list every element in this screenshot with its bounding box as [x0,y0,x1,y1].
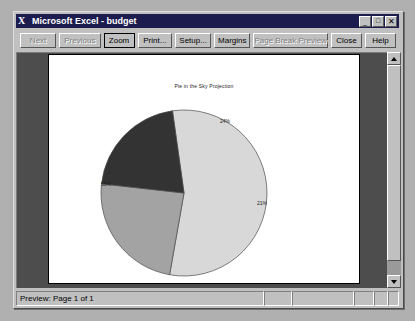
pie-slice [102,111,184,193]
toolbar-button-label: Previous [64,36,95,45]
close-icon: ✕ [386,18,396,25]
minimize-button[interactable]: _ [359,16,371,27]
toolbar-button-label: Next [30,36,46,45]
preview-page-sheet: Pie in the Sky Projection 24% 21% 55% [48,54,360,284]
print-button[interactable]: Print... [138,33,172,48]
print-preview-toolbar: NextPreviousZoomPrint...Setup...MarginsP… [16,29,399,51]
excel-x-icon: X [18,16,29,27]
vertical-scrollbar[interactable] [387,52,401,288]
setup-button[interactable]: Setup... [175,33,211,48]
toolbar-button-label: Setup... [179,36,207,45]
pie-chart: Pie in the Sky Projection 24% 21% 55% [49,55,359,283]
excel-x-glyph: X [18,15,25,26]
next-button: Next [20,33,56,48]
close-button[interactable]: Close [331,33,362,48]
toolbar-button-label: Print... [143,36,166,45]
pie-graphic: 24% 21% 55% [100,109,268,277]
maximize-button[interactable]: □ [372,16,384,27]
window-title: Microsoft Excel - budget [32,14,137,28]
triangle-down-icon [391,280,397,284]
scrollbar-thumb[interactable] [387,65,401,261]
margins-button[interactable]: Margins [214,33,250,48]
status-panel-5 [388,291,399,306]
minimize-icon: _ [360,18,370,25]
excel-print-preview-window: X Microsoft Excel - budget _ □ ✕ NextPre… [13,11,404,309]
status-text: Preview: Page 1 of 1 [16,291,264,306]
toolbar-button-label: Zoom [109,36,129,45]
slice-label-left: 55% [101,181,111,187]
status-bar: Preview: Page 1 of 1 [16,291,399,306]
preview-client-area[interactable]: Pie in the Sky Projection 24% 21% 55% [16,52,399,288]
window-controls: _ □ ✕ [359,16,399,27]
close-window-button[interactable]: ✕ [385,16,397,27]
triangle-up-icon [391,57,397,61]
status-panel-4 [374,291,388,306]
pie-slice [101,184,184,275]
status-panel-1 [264,291,292,306]
scrollbar-track[interactable] [387,65,401,275]
slice-label-top-right: 24% [220,118,230,124]
maximize-icon: □ [373,17,383,24]
toolbar-button-label: Margins [218,36,246,45]
help-button[interactable]: Help [365,33,396,48]
toolbar-button-label: Close [336,36,356,45]
slice-label-bottom-right: 21% [257,200,267,206]
scroll-down-button[interactable] [387,275,401,288]
scroll-up-button[interactable] [387,52,401,65]
previous-button: Previous [59,33,100,48]
chart-title: Pie in the Sky Projection [49,83,359,89]
page-break-preview-button: Page Break Preview [253,33,327,48]
status-panel-2 [292,291,354,306]
status-panel-3 [354,291,374,306]
pie-svg [100,109,268,277]
toolbar-button-label: Page Break Preview [254,36,326,45]
desktop-background: X Microsoft Excel - budget _ □ ✕ NextPre… [0,0,415,321]
toolbar-button-label: Help [372,36,388,45]
title-bar[interactable]: X Microsoft Excel - budget _ □ ✕ [16,14,399,28]
zoom-button[interactable]: Zoom [104,33,135,48]
